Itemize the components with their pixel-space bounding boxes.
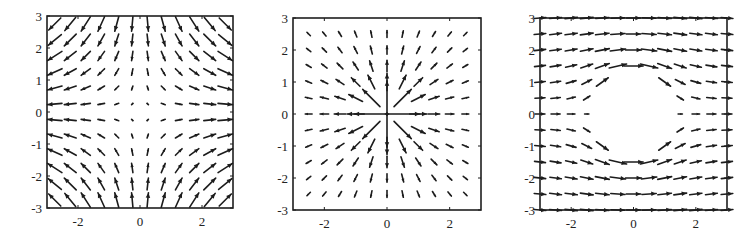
- y-tick-label: -1: [524, 139, 535, 154]
- arrow-head-icon: [604, 16, 609, 20]
- arrow-head-icon: [636, 32, 641, 37]
- arrow-head-icon: [556, 112, 560, 115]
- arrow-head-icon: [651, 16, 656, 20]
- arrow-head-icon: [604, 63, 609, 67]
- arrow-head-icon: [572, 113, 575, 116]
- arrow-head-icon: [620, 32, 625, 36]
- arrow-head-icon: [728, 128, 732, 132]
- arrow-head-icon: [635, 208, 640, 213]
- arrow-head-icon: [620, 16, 625, 20]
- arrow-head-icon: [728, 112, 732, 116]
- arrow-head-icon: [681, 64, 686, 68]
- x-tick-label: 2: [693, 216, 700, 231]
- y-tick-label: 1: [529, 75, 536, 90]
- arrow-head-icon: [636, 192, 641, 197]
- x-tick-label: -2: [566, 216, 577, 231]
- arrow-head-icon: [697, 113, 700, 116]
- quiver-arrows: [534, 16, 733, 213]
- y-tick-label: -2: [524, 171, 535, 186]
- arrow-head-icon: [666, 159, 671, 163]
- arrow-head-icon: [681, 159, 686, 163]
- arrow-head-icon: [651, 208, 656, 212]
- arrow-head-icon: [728, 16, 733, 20]
- arrow-head-icon: [666, 208, 671, 212]
- arrow-head-icon: [712, 112, 716, 115]
- arrow-head-icon: [541, 96, 545, 100]
- arrow-head-icon: [637, 176, 642, 181]
- arrow-head-icon: [604, 208, 609, 212]
- arrow-head-icon: [541, 128, 545, 132]
- arrow-head-icon: [635, 16, 640, 21]
- y-tick-label: 0: [529, 107, 536, 122]
- arrow-head-icon: [728, 96, 732, 100]
- arrow-head-icon: [541, 16, 546, 20]
- arrow-head-icon: [637, 48, 642, 53]
- arrow-head-icon: [541, 112, 545, 116]
- arrow-head-icon: [666, 16, 671, 20]
- y-tick-label: -3: [524, 203, 535, 218]
- arrow-head-icon: [651, 32, 656, 36]
- arrow-head-icon: [587, 160, 592, 164]
- arrow-head-icon: [620, 208, 625, 212]
- arrow-head-icon: [666, 65, 671, 69]
- arrow-head-icon: [587, 63, 592, 67]
- arrow-head-icon: [604, 161, 609, 165]
- arrow-head-icon: [651, 192, 656, 196]
- cylinder-flow-svg: -2023210-1-2-3: [0, 0, 753, 243]
- arrow-head-icon: [620, 192, 625, 196]
- cylinder-flow-plot: -2023210-1-2-3: [0, 0, 753, 243]
- arrow-head-icon: [541, 208, 546, 212]
- x-tick-label: 0: [630, 216, 637, 231]
- arrow-head-icon: [728, 208, 733, 212]
